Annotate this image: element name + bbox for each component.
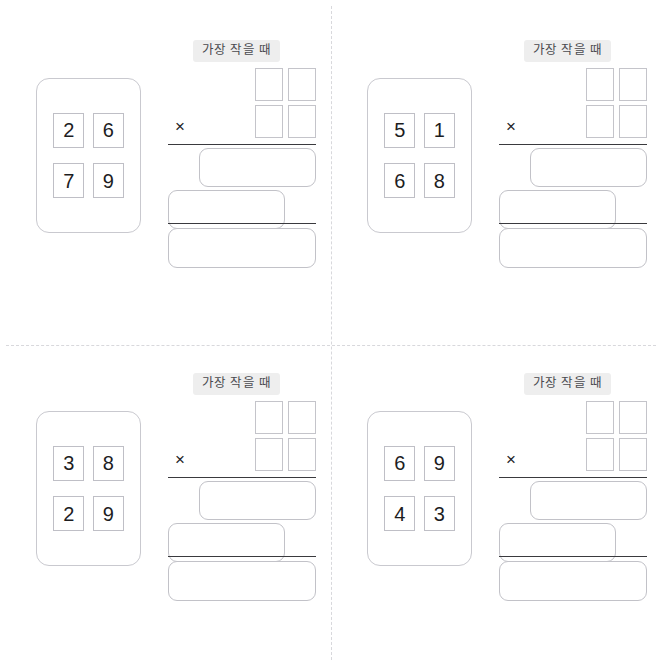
partial-product-box-1[interactable] [530, 148, 647, 187]
worksheet: 2 6 7 9 가장 작을 때 × 5 [0, 0, 662, 666]
digit-card-2: 5 1 6 8 [367, 78, 472, 233]
operand-grid-4 [586, 401, 647, 471]
digit-tile: 6 [384, 446, 415, 481]
digit-tile: 1 [424, 113, 455, 148]
condition-label: 가장 작을 때 [193, 373, 280, 395]
digit-tile: 9 [93, 163, 124, 198]
digit-tile: 8 [424, 163, 455, 198]
multiplication-sign: × [506, 451, 516, 468]
operand-input-box[interactable] [619, 438, 647, 471]
horizontal-rule-bottom [168, 556, 316, 557]
digit-card-1: 2 6 7 9 [36, 78, 141, 233]
digit-tile: 3 [424, 496, 455, 531]
multiplication-frame-4: 가장 작을 때 × [499, 373, 647, 623]
problem-panel-4: 6 9 4 3 가장 작을 때 × [331, 333, 662, 666]
horizontal-rule-top [168, 477, 316, 478]
horizontal-rule-top [499, 144, 647, 145]
digit-tile: 8 [93, 446, 124, 481]
condition-label: 가장 작을 때 [193, 40, 280, 62]
operand-input-box[interactable] [288, 438, 316, 471]
operand-input-box[interactable] [255, 105, 283, 138]
horizontal-rule-bottom [168, 223, 316, 224]
partial-product-box-1[interactable] [530, 481, 647, 520]
horizontal-rule-top [499, 477, 647, 478]
operand-input-box[interactable] [619, 401, 647, 434]
operand-input-box[interactable] [586, 105, 614, 138]
condition-label: 가장 작을 때 [524, 40, 611, 62]
digit-tile: 6 [93, 113, 124, 148]
operand-input-box[interactable] [586, 438, 614, 471]
multiplication-sign: × [175, 118, 185, 135]
horizontal-rule-top [168, 144, 316, 145]
problem-panel-2: 5 1 6 8 가장 작을 때 × [331, 0, 662, 333]
operand-grid-2 [586, 68, 647, 138]
digit-tile: 2 [53, 496, 84, 531]
operand-grid-1 [255, 68, 316, 138]
horizontal-rule-bottom [499, 223, 647, 224]
operand-input-box[interactable] [255, 401, 283, 434]
operand-input-box[interactable] [619, 105, 647, 138]
digit-grid-4: 6 9 4 3 [368, 412, 471, 565]
operand-input-box[interactable] [586, 68, 614, 101]
operand-input-box[interactable] [619, 68, 647, 101]
total-answer-box[interactable] [168, 228, 316, 268]
digit-tile: 9 [93, 496, 124, 531]
horizontal-rule-bottom [499, 556, 647, 557]
operand-input-box[interactable] [255, 438, 283, 471]
partial-product-box-1[interactable] [199, 148, 316, 187]
operand-input-box[interactable] [288, 105, 316, 138]
partial-product-box-1[interactable] [199, 481, 316, 520]
digit-tile: 6 [384, 163, 415, 198]
total-answer-box[interactable] [499, 228, 647, 268]
multiplication-frame-3: 가장 작을 때 × [168, 373, 316, 623]
operand-input-box[interactable] [586, 401, 614, 434]
digit-tile: 4 [384, 496, 415, 531]
operand-input-box[interactable] [288, 68, 316, 101]
total-answer-box[interactable] [499, 561, 647, 601]
digit-grid-2: 5 1 6 8 [368, 79, 471, 232]
total-answer-box[interactable] [168, 561, 316, 601]
operand-input-box[interactable] [255, 68, 283, 101]
digit-grid-1: 2 6 7 9 [37, 79, 140, 232]
multiplication-sign: × [506, 118, 516, 135]
operand-input-box[interactable] [288, 401, 316, 434]
multiplication-sign: × [175, 451, 185, 468]
problem-panel-1: 2 6 7 9 가장 작을 때 × [0, 0, 331, 333]
digit-tile: 7 [53, 163, 84, 198]
digit-grid-3: 3 8 2 9 [37, 412, 140, 565]
digit-card-3: 3 8 2 9 [36, 411, 141, 566]
multiplication-frame-1: 가장 작을 때 × [168, 40, 316, 290]
digit-tile: 9 [424, 446, 455, 481]
multiplication-frame-2: 가장 작을 때 × [499, 40, 647, 290]
digit-card-4: 6 9 4 3 [367, 411, 472, 566]
problem-panel-3: 3 8 2 9 가장 작을 때 × [0, 333, 331, 666]
digit-tile: 3 [53, 446, 84, 481]
condition-label: 가장 작을 때 [524, 373, 611, 395]
operand-grid-3 [255, 401, 316, 471]
digit-tile: 2 [53, 113, 84, 148]
digit-tile: 5 [384, 113, 415, 148]
vertical-panel-divider [331, 6, 332, 660]
